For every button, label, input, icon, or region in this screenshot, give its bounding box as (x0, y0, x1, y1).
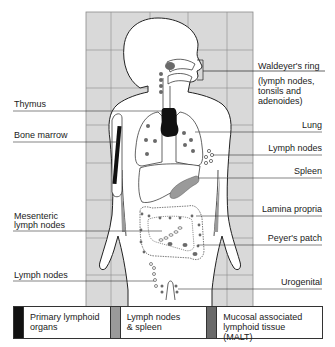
legend-swatch-malt (207, 307, 217, 338)
label-thymus: Thymus (14, 99, 46, 109)
legend-item-malt: Mucosal associated lymphoid tissue (MALT… (206, 307, 322, 338)
legend-item-primary: Primary lymphoid organs (14, 307, 110, 338)
label-lamina-propria: Lamina propria (262, 204, 322, 214)
legend-swatch-lymph-nodes-spleen (111, 307, 121, 338)
label-waldeyers-ring: Waldeyer's ring (258, 61, 319, 71)
legend-label-primary: Primary lymphoid organs (24, 307, 106, 338)
label-bone-marrow: Bone marrow (14, 130, 68, 140)
legend-swatch-primary (14, 307, 24, 338)
diagram-figure (0, 0, 335, 347)
label-waldeyer-sub-3: adenoides) (258, 96, 303, 106)
legend-item-lymph-nodes-spleen: Lymph nodes & spleen (110, 307, 207, 338)
label-lymph-nodes-lower: Lymph nodes (14, 270, 68, 280)
legend: Primary lymphoid organs Lymph nodes & sp… (13, 306, 323, 339)
lymphoid-diagram: Thymus Bone marrow Mesenteric lymph node… (0, 0, 335, 347)
label-peyers-patch: Peyer's patch (268, 233, 322, 243)
legend-label-lymph-nodes-spleen: Lymph nodes & spleen (121, 307, 187, 338)
label-waldeyer-sub-2: tonsils and (258, 86, 301, 96)
label-urogenital: Urogenital (281, 277, 322, 287)
thymus (161, 108, 179, 137)
label-spleen: Spleen (294, 166, 322, 176)
label-lung: Lung (302, 120, 322, 130)
tonsil-adenoid (165, 62, 175, 70)
legend-label-malt: Mucosal associated lymphoid tissue (MALT… (217, 307, 322, 338)
label-lymph-nodes: Lymph nodes (268, 143, 322, 153)
label-waldeyer-sub-1: (lymph nodes, (258, 76, 315, 86)
label-mesenteric-2: lymph nodes (14, 220, 65, 230)
